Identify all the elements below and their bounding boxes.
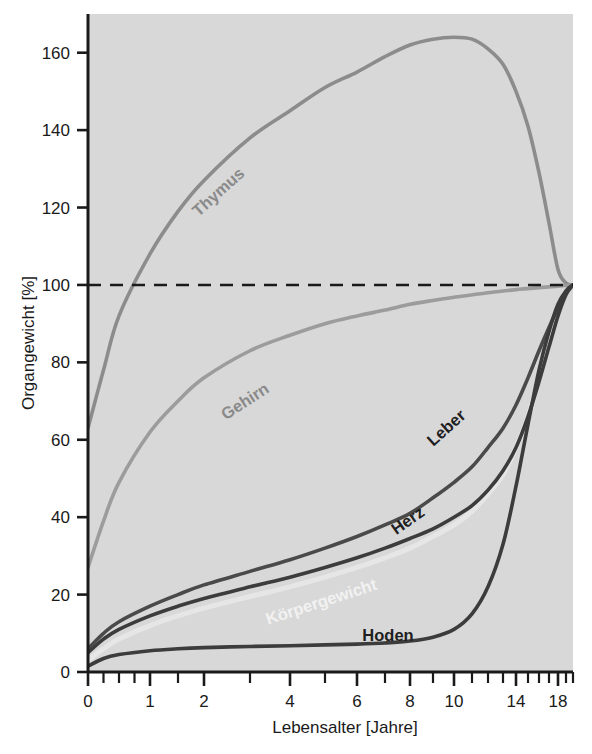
y-tick-label: 0	[61, 663, 70, 682]
x-tick-label: 10	[445, 692, 464, 711]
y-axis-ticks: 020406080100120140160	[42, 44, 88, 682]
x-tick-label: 0	[83, 692, 92, 711]
x-tick-label: 18	[549, 692, 568, 711]
x-axis-title: Lebensalter [Jahre]	[272, 718, 418, 737]
y-tick-label: 140	[42, 121, 70, 140]
x-tick-label: 2	[199, 692, 208, 711]
y-tick-label: 20	[51, 586, 70, 605]
curve-label-hoden: Hoden	[362, 626, 413, 644]
x-tick-label: 1	[145, 692, 154, 711]
y-tick-label: 80	[51, 353, 70, 372]
y-tick-label: 60	[51, 431, 70, 450]
organ-growth-chart: 020406080100120140160 012468101418 Thymu…	[0, 0, 592, 754]
y-tick-label: 100	[42, 276, 70, 295]
y-axis-title: Organgewicht [%]	[19, 276, 38, 410]
x-tick-label: 8	[405, 692, 414, 711]
y-tick-label: 160	[42, 44, 70, 63]
chart-figure: 020406080100120140160 012468101418 Thymu…	[0, 0, 592, 754]
x-tick-label: 14	[507, 692, 526, 711]
y-tick-label: 120	[42, 199, 70, 218]
x-tick-label: 6	[352, 692, 361, 711]
y-tick-label: 40	[51, 508, 70, 527]
x-axis-ticks: 012468101418	[83, 672, 573, 711]
x-tick-label: 4	[285, 692, 294, 711]
